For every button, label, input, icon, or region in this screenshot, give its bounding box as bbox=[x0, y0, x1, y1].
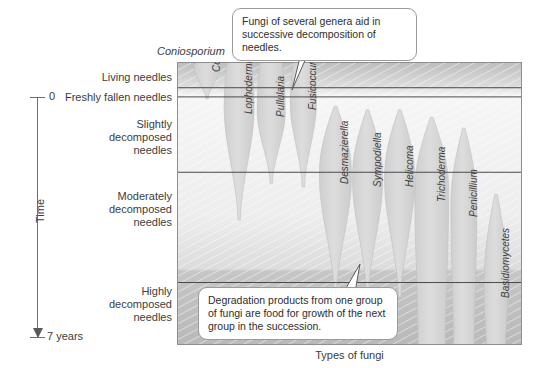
time-axis-title: Time bbox=[34, 181, 46, 241]
x-axis-title: Types of fungi bbox=[177, 349, 522, 361]
time-axis-tick-end bbox=[30, 337, 45, 338]
taxon-label-sympodiella: Sympodiella bbox=[372, 133, 383, 187]
figure-root: 0 7 years Time Living needles Freshly fa… bbox=[0, 0, 550, 368]
stage-label-slightly-decomposed: Slightly decomposed needles bbox=[60, 118, 172, 157]
taxon-label-coniosporium: Coniosporium bbox=[211, 62, 222, 72]
taxon-label-trichoderma: Trichoderma bbox=[436, 147, 447, 202]
stage-label-freshly-fallen: Freshly fallen needles bbox=[60, 91, 172, 104]
taxon-label-coniosporium-top: Coniosporium bbox=[157, 45, 225, 57]
taxon-label-penicillium: Penicillium bbox=[468, 169, 479, 217]
callout-top: Fungi of several genera aid in successiv… bbox=[232, 8, 417, 61]
taxon-label-basidiomycetes: Basidiomycetes bbox=[500, 228, 511, 298]
taxon-label-lophodermium: Lophodermium bbox=[243, 62, 254, 114]
stage-label-living: Living needles bbox=[60, 71, 172, 84]
taxon-label-helicoma: Helicoma bbox=[404, 146, 415, 188]
stage-label-moderately-decomposed: Moderately decomposed needles bbox=[60, 190, 172, 229]
stage-label-group: Living needles Freshly fallen needles Sl… bbox=[60, 60, 172, 350]
time-axis-start-label: 0 bbox=[49, 90, 55, 102]
taxon-label-desmazierella: Desmazierella bbox=[339, 120, 350, 183]
stage-label-highly-decomposed: Highly decomposed needles bbox=[60, 285, 172, 324]
callout-bottom: Degradation products from one group of f… bbox=[198, 287, 398, 340]
